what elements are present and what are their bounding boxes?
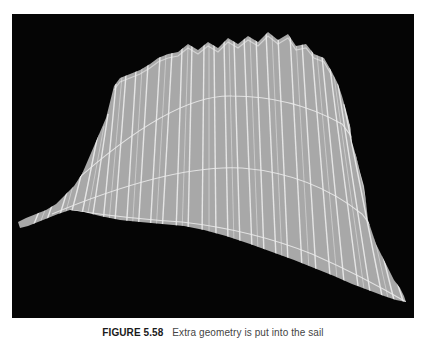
sail-mesh-icon <box>12 14 414 318</box>
figure-caption: FIGURE 5.58 Extra geometry is put into t… <box>0 327 426 338</box>
figure-caption-text: Extra geometry is put into the sail <box>172 327 323 338</box>
figure-label: FIGURE 5.58 <box>102 327 163 338</box>
figure-render <box>12 14 414 318</box>
